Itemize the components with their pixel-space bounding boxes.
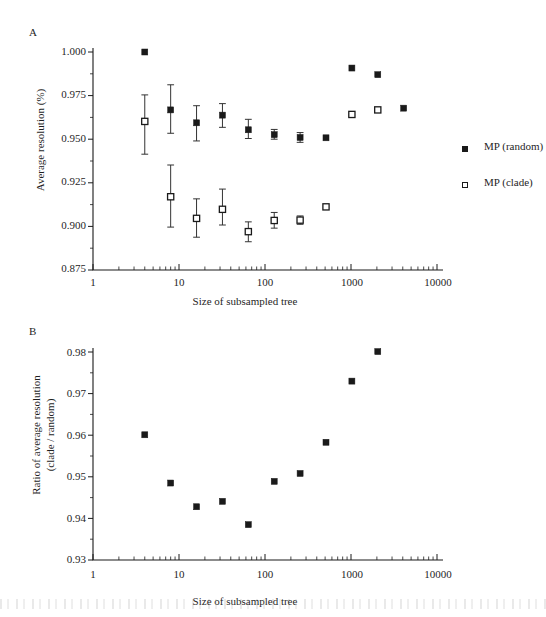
data-point-filled-square — [401, 105, 407, 111]
data-point-open-square — [193, 215, 199, 221]
data-point-filled-square — [219, 112, 225, 118]
data-point-open-square — [297, 217, 303, 223]
data-point-open-square — [245, 229, 251, 235]
data-point-filled-square — [245, 522, 251, 528]
data-point-open-square — [375, 107, 381, 113]
data-point-filled-square — [323, 135, 329, 141]
data-point-filled-square — [142, 49, 148, 55]
panel-b-plot-area — [0, 320, 546, 617]
panel-a: A Average resolution (%) Size of subsamp… — [0, 0, 546, 320]
data-point-filled-square — [194, 504, 200, 510]
data-point-filled-square — [168, 480, 174, 486]
data-point-open-square — [219, 206, 225, 212]
open-square-icon — [462, 182, 468, 188]
axis-spine — [93, 48, 443, 270]
data-point-open-square — [271, 217, 277, 223]
panel-b: B Ratio of average resolution (clade / r… — [0, 320, 546, 617]
data-point-filled-square — [245, 127, 251, 133]
data-point-open-square — [349, 111, 355, 117]
data-point-open-square — [323, 204, 329, 210]
data-point-filled-square — [271, 478, 277, 484]
data-point-filled-square — [142, 432, 148, 438]
data-point-filled-square — [349, 378, 355, 384]
legend-label-mp-clade: MP (clade) — [484, 176, 533, 188]
panel-a-plot-area — [0, 0, 546, 320]
data-point-open-square — [142, 118, 148, 124]
data-point-filled-square — [323, 439, 329, 445]
data-point-filled-square — [219, 498, 225, 504]
legend-label-mp-random: MP (random) — [484, 140, 543, 152]
data-point-filled-square — [375, 349, 381, 355]
data-point-filled-square — [194, 120, 200, 126]
data-point-filled-square — [375, 72, 381, 78]
data-point-filled-square — [297, 134, 303, 140]
data-point-filled-square — [168, 107, 174, 113]
data-point-filled-square — [271, 132, 277, 138]
data-point-open-square — [168, 194, 174, 200]
axis-spine — [93, 348, 443, 560]
filled-square-icon — [462, 146, 468, 152]
data-point-filled-square — [349, 65, 355, 71]
data-point-filled-square — [297, 470, 303, 476]
figure-root: A Average resolution (%) Size of subsamp… — [0, 0, 546, 617]
